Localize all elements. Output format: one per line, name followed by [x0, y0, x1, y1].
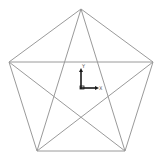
edge-right-bottomright[interactable]: [125, 62, 153, 151]
edge-top-right[interactable]: [81, 9, 153, 62]
diagonal-right-bottomleft[interactable]: [37, 62, 153, 151]
edge-bottomleft-left[interactable]: [9, 62, 37, 151]
sketch-canvas[interactable]: Y X: [0, 0, 163, 161]
edge-left-top[interactable]: [9, 9, 81, 62]
x-axis-label: X: [99, 85, 103, 91]
diagonal-top-bottomleft[interactable]: [37, 9, 81, 151]
y-axis-label: Y: [81, 63, 86, 69]
diagonal-top-bottomright[interactable]: [81, 9, 125, 151]
diagonal-left-bottomright[interactable]: [9, 62, 125, 151]
